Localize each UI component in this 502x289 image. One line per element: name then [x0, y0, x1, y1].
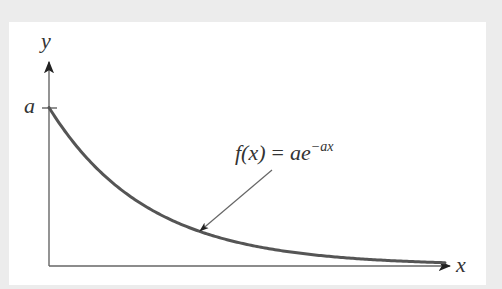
function-base: ae [290, 140, 311, 165]
y-tick-label: a [24, 95, 35, 117]
function-exponent: −ax [311, 139, 334, 154]
exponential-curve [49, 108, 445, 263]
y-axis-label: y [41, 30, 51, 52]
annotation-arrow [200, 170, 272, 231]
equals-sign: = [272, 140, 284, 165]
function-annotation: f(x)=ae−ax [235, 140, 333, 164]
x-axis-label: x [456, 254, 466, 276]
function-name: f(x) [235, 140, 266, 165]
